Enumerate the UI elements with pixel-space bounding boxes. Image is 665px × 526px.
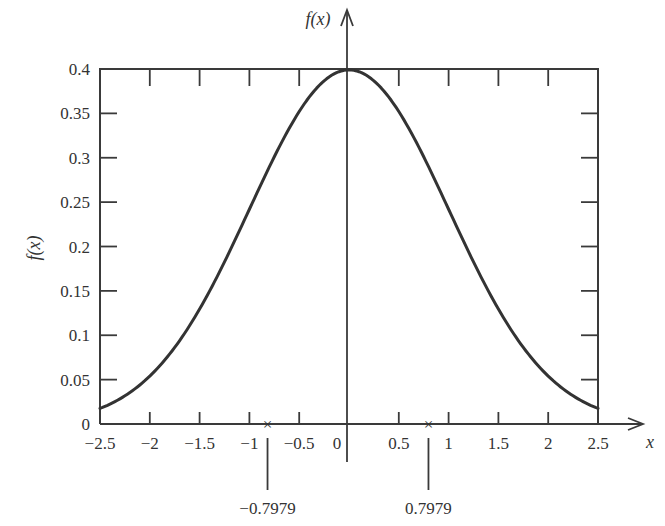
y-axis-label: f(x) [24,236,45,261]
x-tick-label: 2.5 [587,434,608,453]
x-tick-label: 1.5 [488,434,509,453]
x-tick-label: −0.5 [284,434,315,453]
annotation-label: 0.7979 [405,499,452,518]
x-tick-label: 0 [333,434,342,453]
x-tick-label: 2 [544,434,553,453]
y-tick-label: 0.2 [69,238,90,257]
x-tick-label: −2.5 [85,434,116,453]
x-marker-icon: × [263,415,273,434]
y-tick-label: 0.15 [60,282,90,301]
normal-density-chart: 00.050.10.150.20.250.30.350.4 −2.5−2−1.5… [0,0,665,526]
y-tick-label: 0 [82,415,91,434]
y-tick-label: 0.1 [69,326,90,345]
top-axis-label: f(x) [306,9,331,30]
density-curve [100,70,598,409]
tick-marks [100,69,598,424]
x-tick-label: −1 [240,434,258,453]
x-axis-label: x [645,432,654,452]
x-tick-label: −1.5 [184,434,215,453]
frame-border [100,69,598,424]
y-tick-labels: 00.050.10.150.20.250.30.350.4 [60,60,90,434]
plot-frame [100,69,598,424]
x-tick-label: 0.5 [388,434,409,453]
x-tick-label: −2 [141,434,159,453]
annotation-label: −0.7979 [239,499,295,518]
x-marker-icon: × [424,415,434,434]
y-tick-label: 0.05 [60,371,90,390]
y-tick-label: 0.3 [69,149,90,168]
y-tick-label: 0.4 [69,60,91,79]
y-tick-label: 0.25 [60,193,90,212]
annotations: ×−0.7979×0.7979 [239,415,451,518]
x-tick-label: 1 [444,434,453,453]
y-tick-label: 0.35 [60,104,90,123]
